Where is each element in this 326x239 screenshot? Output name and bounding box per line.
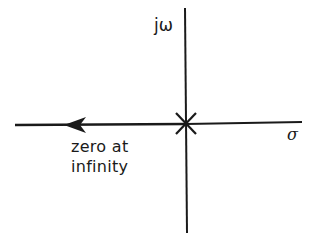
zero-at-infinity-annotation: zero at infinity [71,137,129,177]
real-axis-left [15,124,186,125]
imaginary-axis [185,8,187,233]
s-plane-diagram [0,0,326,239]
annotation-line-2: infinity [71,157,129,177]
real-axis-right [186,122,302,124]
real-axis-label: σ [287,127,298,143]
imaginary-axis-label: jω [154,17,173,34]
annotation-line-1: zero at [71,137,129,157]
